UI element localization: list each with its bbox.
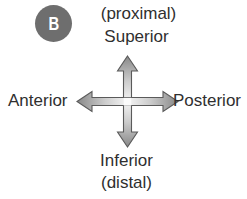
anatomical-direction-figure: B <box>0 0 247 199</box>
direction-cross-arrows <box>74 53 182 150</box>
label-inferior: Inferior <box>0 151 247 170</box>
arrow-posterior <box>128 92 179 112</box>
label-proximal: (proximal) <box>0 4 247 23</box>
arrow-cross-center <box>124 98 131 106</box>
label-posterior: Posterior <box>173 91 241 110</box>
label-distal: (distal) <box>0 173 247 192</box>
arrow-inferior <box>118 102 138 148</box>
arrow-anterior <box>77 92 128 112</box>
arrow-superior <box>118 56 138 102</box>
label-superior: Superior <box>0 27 247 46</box>
label-anterior: Anterior <box>8 91 68 110</box>
